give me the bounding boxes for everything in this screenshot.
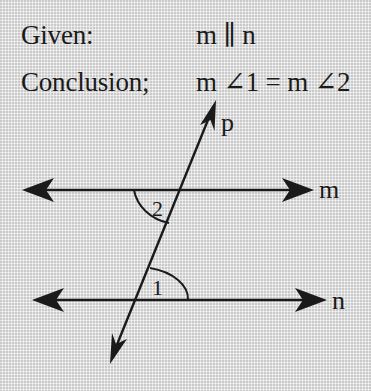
parallel-lines-figure: m n p 2 1 bbox=[0, 0, 371, 391]
line-p-label: p bbox=[221, 108, 234, 137]
line-n bbox=[32, 288, 327, 312]
arrowhead-top-icon bbox=[200, 100, 216, 131]
angle-2-label: 2 bbox=[152, 196, 163, 221]
diagram-page: Given: m ∥ n Conclusion; m ∠1 = m ∠2 bbox=[0, 0, 371, 391]
angle-1-label: 1 bbox=[152, 275, 163, 300]
arrowhead-bottom-icon bbox=[110, 333, 127, 364]
line-m bbox=[22, 178, 314, 202]
line-p bbox=[110, 100, 216, 364]
line-n-label: n bbox=[332, 286, 345, 315]
line-m-label: m bbox=[319, 175, 339, 204]
